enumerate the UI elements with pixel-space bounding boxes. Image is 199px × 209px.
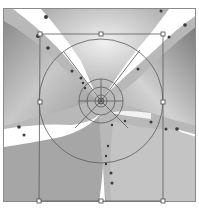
handle-bottom-right[interactable] xyxy=(161,199,165,203)
handle-bottom-middle[interactable] xyxy=(99,199,103,203)
grid-spoke xyxy=(101,50,140,101)
handle-top-left[interactable] xyxy=(38,32,42,36)
handle-top-middle[interactable] xyxy=(99,32,103,36)
handle-top-right[interactable] xyxy=(161,32,165,36)
handle-middle-left[interactable] xyxy=(38,100,42,104)
bounding-box xyxy=(39,34,163,201)
grid-spoke xyxy=(64,52,101,101)
reference-point-icon[interactable] xyxy=(98,98,104,104)
handle-bottom-left[interactable] xyxy=(37,199,41,203)
transform-overlay xyxy=(0,0,199,209)
handle-middle-right[interactable] xyxy=(161,100,165,104)
image-canvas xyxy=(0,0,199,209)
